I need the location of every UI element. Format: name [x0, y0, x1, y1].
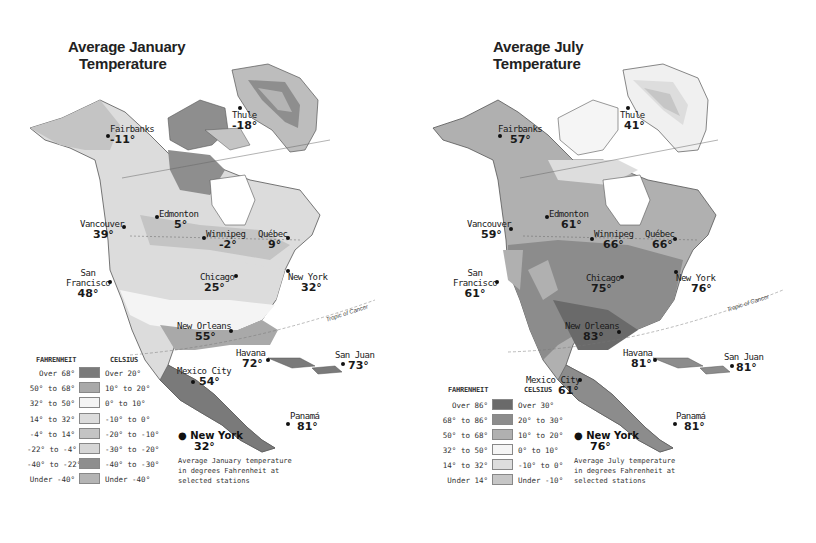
station-dot-icon: [620, 275, 624, 279]
station-dot-icon: [673, 422, 677, 426]
station-dot-icon: [191, 380, 195, 384]
fahrenheit-header: FAHRENHEIT: [448, 386, 488, 394]
station-dot-icon: [653, 358, 657, 362]
legend-celsius-range: Under -40°: [105, 475, 150, 484]
legend-fahrenheit-range: 68° to 86°: [440, 416, 488, 425]
station-value: 83°: [565, 331, 619, 342]
legend-fahrenheit-range: -4° to 14°: [27, 430, 75, 439]
station-panama: Panamá 81°: [676, 411, 706, 432]
station-value: 48°: [66, 288, 110, 299]
legend-celsius-range: -10° to 0°: [518, 461, 563, 470]
legend-fahrenheit-range: Over 86°: [440, 401, 488, 410]
legend-color-swatch: [79, 428, 100, 439]
station-thule: Thule 41°: [620, 110, 645, 131]
station-new-york: New York 32°: [288, 272, 327, 293]
station-dot-icon: [229, 329, 233, 333]
legend-color-swatch: [492, 459, 513, 470]
station-value: 81°: [290, 421, 320, 432]
station-value: 57°: [498, 134, 542, 145]
station-value: 55°: [177, 331, 231, 342]
legend-celsius-range: -40° to -30°: [105, 460, 159, 469]
station-dot-icon: [626, 106, 630, 110]
station-value: -18°: [232, 120, 257, 131]
station-dot-icon: [266, 358, 270, 362]
legend-fahrenheit-range: 32° to 50°: [27, 399, 75, 408]
legend-celsius-range: -30° to -20°: [105, 445, 159, 454]
station-value: 9°: [258, 239, 288, 250]
key-desc-line: selected stations: [574, 477, 646, 485]
station-dot-icon: [498, 134, 502, 138]
station-san-juan: San Juan 81°: [724, 352, 763, 373]
legend-color-swatch: [79, 382, 100, 393]
station-mexico-city: Mexico City 54°: [177, 366, 231, 387]
station-new-orleans: New Orleans 55°: [177, 321, 231, 342]
legend-celsius-range: 0° to 10°: [518, 446, 559, 455]
station-winnipeg: Winnipeg -2°: [206, 229, 245, 250]
legend-color-swatch: [79, 413, 100, 424]
station-value: 81°: [676, 421, 706, 432]
station-value: 41°: [620, 120, 645, 131]
station-value: 61°: [453, 288, 497, 299]
station-dot-icon: [234, 274, 238, 278]
station-value: 39°: [80, 229, 124, 240]
legend-fahrenheit-range: 32° to 50°: [440, 446, 488, 455]
station-dot-icon: [578, 378, 582, 382]
legend-celsius-range: -20° to -10°: [105, 430, 159, 439]
station-value: 61°: [549, 219, 588, 230]
legend-celsius-range: Over 20°: [105, 369, 141, 378]
legend-celsius-range: -10° to 0°: [105, 415, 150, 424]
legend-color-swatch: [79, 473, 100, 484]
legend-fahrenheit-range: 14° to 32°: [440, 461, 488, 470]
legend-color-swatch: [492, 414, 513, 425]
station-vancouver: Vancouver 39°: [80, 219, 124, 240]
legend-color-swatch: [492, 474, 513, 485]
legend-fahrenheit-range: Under -40°: [27, 475, 75, 484]
station-vancouver: Vancouver 59°: [467, 219, 511, 240]
station-thule: Thule -18°: [232, 110, 257, 131]
legend-key: ● New York 32° Average January temperatu…: [178, 430, 292, 486]
station-dot-icon: [238, 106, 242, 110]
legend-color-swatch: [79, 367, 100, 378]
station-value: 66°: [645, 239, 675, 250]
station-value: 66°: [594, 239, 633, 250]
key-station-value: 32°: [178, 441, 292, 453]
station-name: San Francisco: [453, 268, 497, 288]
station-panama: Panamá 81°: [290, 411, 320, 432]
legend-celsius-range: 0° to 10°: [105, 399, 146, 408]
station-name: San Francisco: [66, 268, 110, 288]
legend-color-swatch: [79, 458, 100, 469]
station-chicago: Chicago 25°: [200, 272, 234, 293]
station-dot-icon: [108, 280, 112, 284]
january-map-panel: Average January Temperature Tropic: [0, 0, 408, 543]
key-desc-line: in degrees Fahrenheit at: [178, 467, 279, 475]
key-desc-line: Average January temperature: [178, 457, 292, 465]
station-san-juan: San Juan 73°: [335, 350, 374, 371]
station-havana: Havana 81°: [623, 348, 653, 369]
station-dot-icon: [122, 225, 126, 229]
station-fairbanks: Fairbanks -11°: [110, 124, 154, 145]
legend-color-swatch: [492, 429, 513, 440]
station-dot-icon: [341, 362, 345, 366]
station-dot-icon: [495, 280, 499, 284]
station-dot-icon: [509, 227, 513, 231]
legend-color-swatch: [79, 397, 100, 408]
station-value: 54°: [177, 376, 231, 387]
key-station-value: 76°: [574, 441, 675, 453]
legend-celsius-range: 10° to 20°: [518, 431, 563, 440]
legend-fahrenheit-range: 50° to 68°: [27, 384, 75, 393]
station-winnipeg: Winnipeg 66°: [594, 229, 633, 250]
legend-celsius-range: Under -10°: [518, 476, 563, 485]
station-value: 72°: [236, 358, 266, 369]
station-edmonton: Edmonton 61°: [549, 209, 588, 230]
station-dot-icon: [155, 215, 159, 219]
station-dot-icon: [617, 330, 621, 334]
station-quebec: Québec 66°: [645, 229, 675, 250]
celsius-header: CELSIUS: [110, 356, 138, 364]
key-description: Average July temperature in degrees Fahr…: [574, 456, 675, 486]
station-quebec: Québec 9°: [258, 229, 288, 250]
legend-fahrenheit-range: Under 14°: [440, 476, 488, 485]
station-value: 32°: [288, 282, 327, 293]
station-dot-icon: [286, 422, 290, 426]
celsius-header: CELSIUS: [524, 386, 552, 394]
station-dot-icon: [202, 236, 206, 240]
